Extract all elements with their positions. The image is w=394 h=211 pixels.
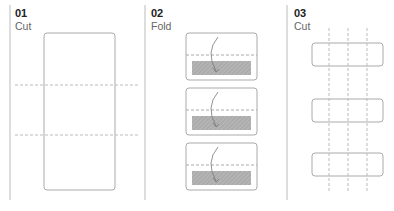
step-1-number: 01: [15, 7, 27, 19]
instruction-diagram: [0, 0, 394, 211]
step-2-label: Fold: [151, 20, 171, 32]
step-1-label: Cut: [15, 20, 31, 32]
step-2-number: 02: [151, 7, 163, 19]
step-3-number: 03: [294, 7, 306, 19]
step-3-diagram: [312, 28, 383, 192]
step-1-diagram: [15, 33, 140, 190]
step-2-diagram: [186, 33, 257, 190]
step-3-label: Cut: [294, 20, 310, 32]
